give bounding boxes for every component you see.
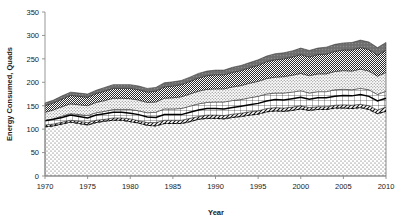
y-axis-title: Energy Consumed, Quads (5, 47, 14, 141)
x-tick-label: 1985 (165, 182, 182, 191)
y-tick-label: 250 (26, 55, 39, 64)
y-tick-label: 150 (26, 102, 39, 111)
x-tick-label: 1990 (207, 182, 224, 191)
x-axis-title: Year (208, 208, 224, 217)
y-tick-label: 300 (26, 31, 39, 40)
x-tick-label: 2010 (378, 182, 395, 191)
y-tick-label: 100 (26, 125, 39, 134)
y-tick-label: 200 (26, 78, 39, 87)
y-tick-label: 50 (31, 148, 39, 157)
x-tick-label: 2000 (292, 182, 309, 191)
chart-canvas: 0501001502002503003501970197519801985199… (0, 0, 409, 220)
x-tick-label: 1995 (250, 182, 267, 191)
x-tick-label: 1970 (37, 182, 54, 191)
x-tick-label: 2005 (335, 182, 352, 191)
x-tick-label: 1975 (79, 182, 96, 191)
energy-consumption-chart: 0501001502002503003501970197519801985199… (0, 0, 409, 220)
y-tick-label: 0 (35, 172, 39, 181)
y-tick-label: 350 (26, 8, 39, 17)
x-tick-label: 1980 (122, 182, 139, 191)
